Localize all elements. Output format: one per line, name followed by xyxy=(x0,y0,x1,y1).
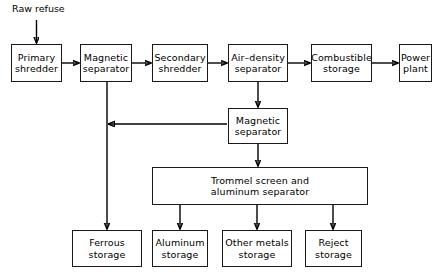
flowchart-canvas: Raw refuse Primary shredder Magnetic sep… xyxy=(0,0,437,272)
node-secondary-shredder[interactable]: Secondary shredder xyxy=(152,44,208,82)
node-combustible-storage[interactable]: Combustible storage xyxy=(311,44,372,82)
node-ferrous-storage[interactable]: Ferrous storage xyxy=(72,230,142,267)
node-magnetic-separator-2[interactable]: Magnetic separator xyxy=(228,108,288,144)
node-primary-shredder[interactable]: Primary shredder xyxy=(11,44,62,82)
node-reject-storage[interactable]: Reject storage xyxy=(305,230,362,267)
node-air-density-separator[interactable]: Air–density separator xyxy=(228,44,288,82)
node-trommel-screen[interactable]: Trommel screen and aluminum separator xyxy=(152,167,368,205)
node-power-plant[interactable]: Power plant xyxy=(399,44,432,82)
node-aluminum-storage[interactable]: Aluminum storage xyxy=(152,230,208,267)
node-raw-refuse: Raw refuse xyxy=(12,3,76,17)
node-magnetic-separator-1[interactable]: Magnetic separator xyxy=(80,44,132,82)
flowchart-connectors xyxy=(0,0,437,272)
node-other-metals-storage[interactable]: Other metals storage xyxy=(222,230,292,267)
